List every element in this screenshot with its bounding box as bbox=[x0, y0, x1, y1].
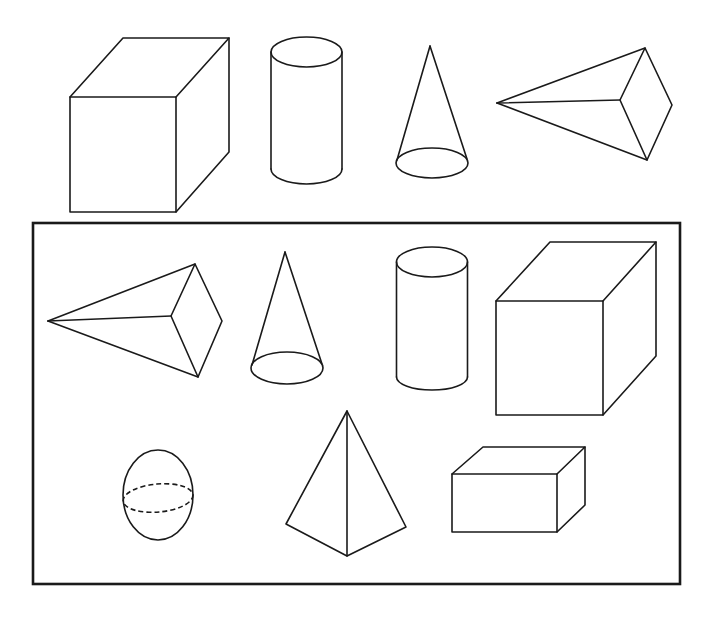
cone-framed bbox=[251, 252, 323, 384]
cube-framed bbox=[496, 242, 656, 415]
cuboid-framed bbox=[452, 447, 585, 532]
pyramid-top bbox=[497, 48, 672, 160]
selection-frame bbox=[33, 223, 680, 584]
shapes-diagram bbox=[0, 0, 711, 621]
cylinder-top bbox=[271, 37, 342, 184]
cylinder-framed bbox=[397, 247, 468, 390]
tetrahedron-framed bbox=[286, 411, 406, 556]
sphere-framed bbox=[122, 450, 194, 540]
cone-top bbox=[396, 46, 468, 178]
cube-top bbox=[70, 38, 229, 212]
pyramid-framed bbox=[48, 264, 222, 377]
